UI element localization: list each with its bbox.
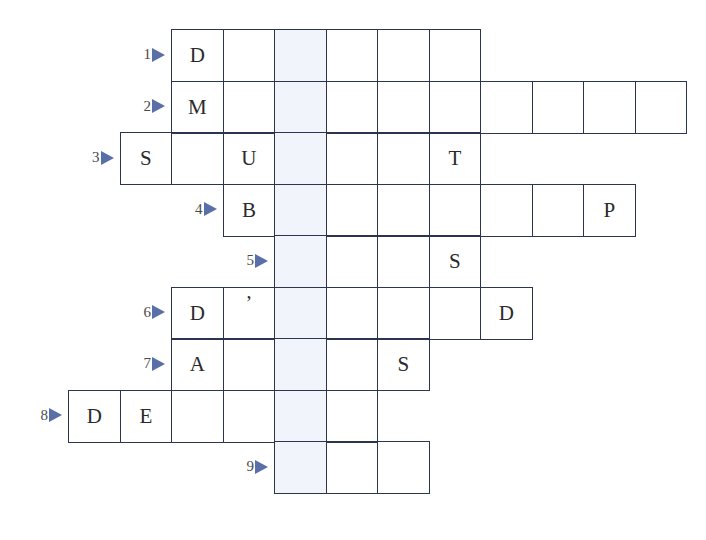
clue-label-2: 2 [144,81,166,132]
crossword-cell[interactable] [223,338,276,391]
crossword-cell[interactable] [532,184,585,237]
crossword-cell[interactable]: U [223,132,276,185]
clue-label-7: 7 [144,338,166,389]
crossword-grid: 1D2M3SUT4BP5S6D’D7AS8DE9 [0,0,706,540]
crossword-cell[interactable] [326,287,379,340]
crossword-cell[interactable] [583,81,636,134]
arrow-right-icon [152,305,165,319]
crossword-cell[interactable] [377,132,430,185]
clue-number: 5 [247,252,255,269]
crossword-cell[interactable]: ’ [223,287,276,340]
clue-label-6: 6 [144,287,166,338]
cell-letter: P [604,200,616,221]
cell-letter: ’ [246,293,253,313]
crossword-cell[interactable] [223,81,276,134]
crossword-cell[interactable] [377,81,430,134]
crossword-cell[interactable] [274,235,327,288]
crossword-cell[interactable]: S [429,235,482,288]
crossword-cell[interactable] [480,81,533,134]
crossword-cell[interactable] [377,184,430,237]
crossword-cell[interactable] [326,338,379,391]
arrow-right-icon [255,254,268,268]
clue-number: 7 [144,355,152,372]
crossword-cell[interactable] [532,81,585,134]
crossword-cell[interactable] [429,29,482,82]
arrow-right-icon [152,48,165,62]
crossword-cell[interactable] [274,184,327,237]
crossword-cell[interactable] [274,287,327,340]
crossword-cell[interactable] [326,29,379,82]
crossword-cell[interactable]: D [171,29,224,82]
crossword-cell[interactable] [274,338,327,391]
cell-letter: E [139,406,152,427]
cell-letter: T [448,148,461,169]
crossword-cell[interactable] [274,29,327,82]
crossword-cell[interactable] [326,132,379,185]
arrow-right-icon [152,99,165,113]
crossword-cell[interactable]: S [377,338,430,391]
clue-number: 1 [144,46,152,63]
crossword-cell[interactable] [377,29,430,82]
crossword-cell[interactable]: P [583,184,636,237]
cell-letter: B [242,200,256,221]
clue-number: 4 [195,201,203,218]
crossword-cell[interactable]: T [429,132,482,185]
crossword-cell[interactable] [326,390,379,443]
crossword-cell[interactable]: M [171,81,224,134]
cell-letter: S [140,148,152,169]
cell-letter: U [241,148,256,169]
crossword-cell[interactable] [377,287,430,340]
crossword-cell[interactable]: B [223,184,276,237]
cell-letter: A [190,354,205,375]
crossword-cell[interactable] [326,235,379,288]
clue-label-4: 4 [195,184,217,235]
crossword-cell[interactable] [171,132,224,185]
crossword-cell[interactable] [223,29,276,82]
clue-number: 8 [41,407,49,424]
crossword-cell[interactable] [223,390,276,443]
crossword-cell[interactable]: E [120,390,173,443]
arrow-right-icon [255,460,268,474]
cell-letter: S [449,251,461,272]
arrow-right-icon [49,408,62,422]
crossword-cell[interactable] [635,81,688,134]
arrow-right-icon [152,357,165,371]
crossword-cell[interactable] [274,81,327,134]
clue-label-8: 8 [41,390,63,441]
crossword-cell[interactable] [326,81,379,134]
cell-letter: D [190,303,205,324]
crossword-cell[interactable]: S [120,132,173,185]
crossword-cell[interactable] [377,235,430,288]
cell-letter: D [190,45,205,66]
crossword-cell[interactable] [274,132,327,185]
crossword-cell[interactable] [429,184,482,237]
crossword-cell[interactable]: D [171,287,224,340]
crossword-cell[interactable] [377,441,430,494]
clue-number: 3 [92,149,100,166]
crossword-cell[interactable] [171,390,224,443]
arrow-right-icon [204,202,217,216]
crossword-cell[interactable] [274,390,327,443]
cell-letter: S [398,354,410,375]
clue-number: 6 [144,304,152,321]
crossword-cell[interactable] [274,441,327,494]
cell-letter: M [188,97,207,118]
clue-number: 2 [144,98,152,115]
crossword-cell[interactable]: A [171,338,224,391]
clue-label-3: 3 [92,132,114,183]
cell-letter: D [87,406,102,427]
crossword-cell[interactable]: D [480,287,533,340]
arrow-right-icon [101,151,114,165]
crossword-cell[interactable] [429,81,482,134]
crossword-cell[interactable] [480,184,533,237]
clue-label-1: 1 [144,29,166,80]
crossword-cell[interactable] [429,287,482,340]
crossword-cell[interactable] [326,184,379,237]
clue-label-5: 5 [247,235,269,286]
crossword-cell[interactable]: D [68,390,121,443]
cell-letter: D [499,303,514,324]
crossword-cell[interactable] [326,441,379,494]
clue-label-9: 9 [247,441,269,492]
clue-number: 9 [247,458,255,475]
